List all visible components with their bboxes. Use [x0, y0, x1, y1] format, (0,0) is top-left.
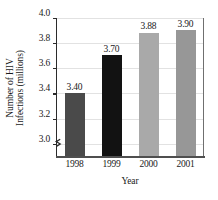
bar-group[interactable]: 3.88 [139, 18, 159, 157]
bar[interactable] [102, 55, 122, 156]
bar-value-label: 3.90 [168, 19, 204, 29]
bar-value-label: 3.88 [131, 21, 167, 31]
y-axis-tick-label: 3.4 [28, 84, 50, 93]
x-axis-line [56, 156, 205, 158]
bar-value-label: 3.40 [57, 82, 93, 92]
x-axis-title: Year [56, 176, 204, 186]
x-axis-tick-label: 1999 [93, 159, 130, 170]
y-axis-title-line-2: Infections (millions) [15, 50, 25, 126]
bar[interactable] [139, 33, 159, 157]
y-axis-tick-label: 3.6 [28, 59, 50, 68]
bar-value-label: 3.70 [94, 44, 130, 54]
bar-group[interactable]: 3.90 [176, 18, 196, 157]
bar[interactable] [65, 93, 85, 156]
x-axis-tick-label: 1998 [56, 159, 93, 170]
y-axis-title: Number of HIV Infections (millions) [2, 8, 28, 168]
bar-group[interactable]: 3.40 [65, 18, 85, 157]
y-axis-tick-label: 3.8 [28, 34, 50, 43]
x-axis-tick-labels: 1998199920002001 [56, 159, 204, 172]
bar-chart-figure: Number of HIV Infections (millions) 4.03… [0, 0, 218, 200]
bar-group[interactable]: 3.70 [102, 18, 122, 157]
y-axis-title-line-1: Number of HIV [5, 58, 15, 117]
x-axis-tick-label: 2001 [167, 159, 204, 170]
bar[interactable] [176, 30, 196, 156]
bars-layer: 3.403.703.883.90 [56, 18, 204, 157]
y-axis-tick-label: 3.2 [28, 110, 50, 119]
x-axis-tick-label: 2000 [130, 159, 167, 170]
y-axis-tick-labels: 4.03.83.63.43.23.0 [28, 13, 50, 138]
y-axis-tick-label: 4.0 [28, 9, 50, 18]
y-axis-tick-label: 3.0 [28, 135, 50, 144]
